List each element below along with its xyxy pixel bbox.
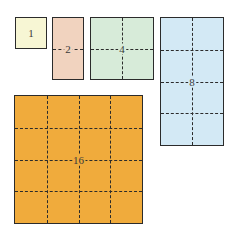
square-1: 1	[15, 17, 47, 49]
label-2: 2	[64, 43, 72, 54]
square-16: 16	[14, 95, 143, 224]
grid-line	[110, 96, 111, 223]
rectangle-8: 8	[160, 17, 224, 146]
square-4: 4	[90, 17, 154, 80]
grid-line	[47, 96, 48, 223]
label-4: 4	[118, 43, 126, 54]
label-8: 8	[188, 76, 196, 87]
label-16: 16	[72, 154, 85, 165]
label-1: 1	[27, 28, 35, 39]
rectangle-2: 2	[52, 17, 84, 80]
